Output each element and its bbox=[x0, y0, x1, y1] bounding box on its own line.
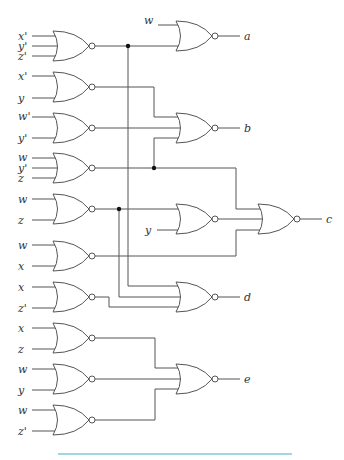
input-label: z bbox=[17, 172, 24, 185]
input-label: w bbox=[18, 193, 28, 206]
nor-gate-m1 bbox=[176, 204, 218, 234]
output-label-a: a bbox=[244, 30, 251, 43]
nor-gate-c bbox=[258, 204, 300, 234]
input-label: x bbox=[18, 281, 25, 294]
input-label: x bbox=[18, 322, 25, 335]
nor-gate-g2 bbox=[53, 72, 95, 102]
nor-gate-a bbox=[176, 21, 218, 51]
input-label: x bbox=[18, 260, 25, 273]
input-gates bbox=[53, 31, 95, 435]
junction-dot bbox=[117, 207, 121, 211]
nor-gate-d bbox=[176, 282, 218, 312]
nor-gate-g5 bbox=[53, 194, 95, 224]
output-label-c: c bbox=[326, 213, 332, 226]
input-label: z' bbox=[17, 425, 27, 438]
output-gates bbox=[176, 21, 300, 394]
input-label: y bbox=[17, 384, 25, 397]
input-label: z bbox=[17, 214, 24, 227]
input-wires bbox=[32, 36, 58, 431]
output-labels: a b c d e bbox=[244, 30, 332, 386]
input-label: z' bbox=[17, 302, 27, 315]
nor-gate-g7 bbox=[53, 282, 95, 312]
junction-dot bbox=[126, 44, 130, 48]
input-label: y' bbox=[17, 132, 27, 145]
nor-gate-b bbox=[176, 113, 218, 143]
input-label: w bbox=[144, 14, 154, 27]
input-label: z bbox=[17, 343, 24, 356]
nor-gate-g9 bbox=[53, 364, 95, 394]
input-labels: x' y' z' x' y w' y' w y' z w z w x x z' … bbox=[17, 14, 154, 438]
input-label: z' bbox=[17, 50, 27, 63]
junction-dot bbox=[152, 166, 156, 170]
output-label-d: d bbox=[244, 291, 251, 304]
nor-gate-e bbox=[176, 364, 218, 394]
output-label-e: e bbox=[244, 373, 251, 386]
input-label: w bbox=[18, 239, 28, 252]
nor-gate-g1 bbox=[53, 31, 95, 61]
input-label: y bbox=[144, 224, 152, 237]
output-label-b: b bbox=[244, 122, 251, 135]
input-label: x' bbox=[18, 70, 27, 83]
nor-gate-g10 bbox=[53, 405, 95, 435]
input-label: w bbox=[18, 363, 28, 376]
nor-gate-g8 bbox=[53, 323, 95, 353]
logic-circuit-diagram: x' y' z' x' y w' y' w y' z w z w x x z' … bbox=[0, 0, 344, 460]
input-label: w bbox=[18, 404, 28, 417]
nor-gate-g4 bbox=[53, 153, 95, 183]
input-label: y bbox=[17, 92, 25, 105]
nor-gate-g3 bbox=[53, 113, 95, 143]
nor-gate-g6 bbox=[53, 241, 95, 271]
input-label: w' bbox=[18, 110, 30, 123]
